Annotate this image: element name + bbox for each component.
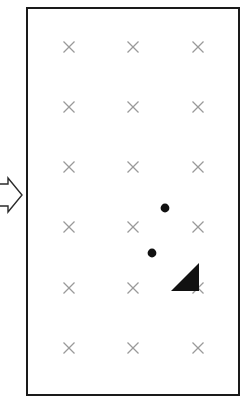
dot-lower [148, 249, 157, 258]
diagram-svg [0, 0, 245, 418]
dot-upper [161, 204, 170, 213]
canvas-background [0, 0, 245, 418]
diagram-canvas [0, 0, 245, 418]
